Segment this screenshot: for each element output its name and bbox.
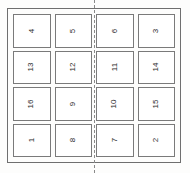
cell-label: 9 <box>69 102 77 106</box>
grid-cell-r3c1[interactable]: 16 <box>13 87 51 121</box>
cell-label: 2 <box>152 138 160 142</box>
cell-label: 8 <box>69 138 77 142</box>
grid-cell-r3c3[interactable]: 10 <box>96 87 134 121</box>
grid-cell-r2c1[interactable]: 13 <box>13 51 51 85</box>
cell-label: 1 <box>28 138 36 142</box>
cell-label: 4 <box>28 29 36 33</box>
vertical-dashed-divider <box>94 0 95 173</box>
cell-label: 3 <box>152 29 160 33</box>
grid-cell-r2c2[interactable]: 12 <box>55 51 93 85</box>
cell-label: 5 <box>69 29 77 33</box>
grid-cell-r4c3[interactable]: 7 <box>96 124 134 158</box>
cell-label: 15 <box>152 99 160 108</box>
grid-cell-r1c2[interactable]: 5 <box>55 14 93 48</box>
cell-label: 12 <box>69 63 77 72</box>
grid-cell-r4c1[interactable]: 1 <box>13 124 51 158</box>
grid-cell-r1c3[interactable]: 6 <box>96 14 134 48</box>
grid-cell-r3c4[interactable]: 15 <box>138 87 176 121</box>
sheet-canvas: 4 5 6 3 13 12 11 14 16 9 10 <box>0 0 190 173</box>
cell-label: 7 <box>111 138 119 142</box>
grid-cell-r4c4[interactable]: 2 <box>138 124 176 158</box>
grid-cell-r3c2[interactable]: 9 <box>55 87 93 121</box>
grid-cell-r2c4[interactable]: 14 <box>138 51 176 85</box>
cell-label: 11 <box>111 63 119 71</box>
grid-cell-r1c4[interactable]: 3 <box>138 14 176 48</box>
cell-label: 6 <box>111 29 119 33</box>
grid-cell-r4c2[interactable]: 8 <box>55 124 93 158</box>
cell-label: 13 <box>28 63 36 72</box>
cell-label: 14 <box>152 63 160 72</box>
grid-cell-r2c3[interactable]: 11 <box>96 51 134 85</box>
cell-label: 10 <box>111 99 119 108</box>
grid-cell-r1c1[interactable]: 4 <box>13 14 51 48</box>
cell-label: 16 <box>28 99 36 108</box>
